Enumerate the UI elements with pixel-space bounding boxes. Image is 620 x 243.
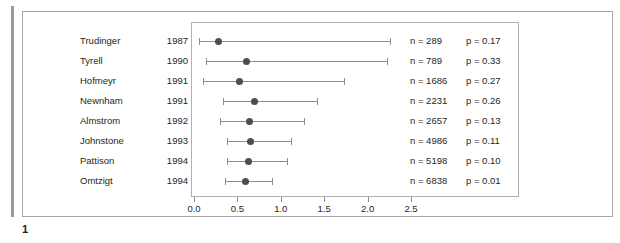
p-value: p = 0.33 (466, 54, 501, 68)
p-value: p = 0.27 (466, 74, 501, 88)
x-axis-tick (324, 197, 325, 202)
statistics-row: n = 4986p = 0.11 (410, 134, 518, 148)
figure-caption-number: 1 (22, 222, 28, 236)
study-label-row: Hofmeyr1991 (80, 74, 188, 88)
study-label-row: Trudinger1987 (80, 34, 188, 48)
p-value: p = 0.10 (466, 154, 501, 168)
left-margin-rule (11, 6, 14, 217)
study-year: 1991 (167, 74, 188, 88)
statistics-column: n = 289p = 0.17n = 789p = 0.33n = 1686p … (410, 22, 518, 197)
p-value: p = 0.11 (466, 134, 500, 148)
study-name: Tyrell (80, 54, 103, 68)
x-axis-tick-label: 2.0 (361, 203, 374, 215)
statistics-row: n = 6838p = 0.01 (410, 174, 518, 188)
study-name: Pattison (80, 154, 114, 168)
study-name: Hofmeyr (80, 74, 116, 88)
x-axis-tick-label: 0.5 (231, 203, 244, 215)
x-axis-tick (411, 197, 412, 202)
statistics-row: n = 1686p = 0.27 (410, 74, 518, 88)
p-value: p = 0.13 (466, 114, 501, 128)
sample-size-value: n = 4986 (410, 134, 447, 148)
study-name: Newnham (80, 94, 123, 108)
study-year: 1987 (167, 34, 188, 48)
sample-size-value: n = 1686 (410, 74, 447, 88)
statistics-row: n = 289p = 0.17 (410, 34, 518, 48)
study-label-row: Almstrom1992 (80, 114, 188, 128)
study-name: Almstrom (80, 114, 120, 128)
study-year: 1994 (167, 174, 188, 188)
study-label-row: Omtzigt1994 (80, 174, 188, 188)
study-label-row: Newnham1991 (80, 94, 188, 108)
statistics-row: n = 2657p = 0.13 (410, 114, 518, 128)
study-year: 1993 (167, 134, 188, 148)
statistics-row: n = 5198p = 0.10 (410, 154, 518, 168)
study-year: 1990 (167, 54, 188, 68)
sample-size-value: n = 2657 (410, 114, 447, 128)
statistics-row: n = 2231p = 0.26 (410, 94, 518, 108)
study-label-row: Pattison1994 (80, 154, 188, 168)
study-name: Omtzigt (80, 174, 113, 188)
p-value: p = 0.01 (466, 174, 501, 188)
x-axis-tick (194, 197, 195, 202)
sample-size-value: n = 289 (410, 34, 442, 48)
statistics-row: n = 789p = 0.33 (410, 54, 518, 68)
x-axis-tick (237, 197, 238, 202)
study-label-row: Tyrell1990 (80, 54, 188, 68)
study-label-row: Johnstone1993 (80, 134, 188, 148)
study-name: Trudinger (80, 34, 120, 48)
x-axis-tick-label: 1.5 (318, 203, 331, 215)
study-name: Johnstone (80, 134, 124, 148)
study-year: 1991 (167, 94, 188, 108)
sample-size-value: n = 789 (410, 54, 442, 68)
x-axis-tick-label: 2.5 (404, 203, 417, 215)
study-year: 1992 (167, 114, 188, 128)
sample-size-value: n = 5198 (410, 154, 447, 168)
p-value: p = 0.26 (466, 94, 501, 108)
study-year: 1994 (167, 154, 188, 168)
sample-size-value: n = 2231 (410, 94, 447, 108)
x-axis-tick-label: 0.0 (187, 203, 200, 215)
x-axis-tick (281, 197, 282, 202)
x-axis-tick-label: 1.0 (274, 203, 287, 215)
x-axis-line (191, 196, 519, 197)
sample-size-value: n = 6838 (410, 174, 447, 188)
p-value: p = 0.17 (466, 34, 501, 48)
figure-page: Trudinger1987Tyrell1990Hofmeyr1991Newnha… (0, 0, 620, 243)
study-label-column: Trudinger1987Tyrell1990Hofmeyr1991Newnha… (80, 22, 188, 197)
x-axis-tick (368, 197, 369, 202)
